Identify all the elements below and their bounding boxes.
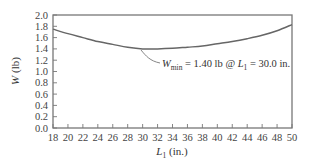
x-tick-label: 18: [48, 132, 59, 143]
y-tick-label: 0.6: [35, 89, 48, 100]
x-tick-label: 50: [287, 132, 298, 143]
weight-curve: [53, 25, 292, 49]
x-axis-label: L1 (in.): [155, 145, 188, 160]
x-tick-label: 32: [152, 132, 163, 143]
y-tick-label: 0.8: [35, 77, 48, 88]
y-tick-label: 0.4: [35, 100, 49, 111]
x-tick-label: 42: [227, 132, 238, 143]
x-tick-label: 20: [63, 132, 74, 143]
x-tick-label: 34: [167, 132, 178, 143]
y-tick-label: 1.2: [35, 55, 48, 66]
y-axis-ticks: 0.00.20.40.60.81.01.21.41.61.82.0: [35, 10, 57, 134]
y-tick-label: 1.0: [35, 66, 48, 77]
y-tick-label: 1.4: [35, 43, 49, 54]
x-tick-label: 36: [182, 132, 193, 143]
y-tick-label: 2.0: [35, 10, 48, 21]
x-tick-label: 38: [197, 132, 208, 143]
x-tick-label: 26: [108, 132, 119, 143]
annotation-leader-line: [141, 50, 160, 63]
y-tick-label: 1.8: [35, 21, 48, 32]
x-tick-label: 30: [137, 132, 148, 143]
chart: 0.00.20.40.60.81.01.21.41.61.82.0 182022…: [0, 0, 309, 165]
x-tick-label: 40: [212, 132, 223, 143]
x-tick-label: 44: [242, 132, 253, 143]
y-tick-label: 0.2: [35, 111, 48, 122]
annotation-text: Wmin = 1.40 lb @ L1 = 30.0 in.: [162, 58, 290, 72]
y-axis-label: W (lb): [9, 57, 22, 85]
x-tick-label: 28: [122, 132, 133, 143]
x-tick-label: 24: [93, 132, 104, 143]
x-tick-label: 22: [78, 132, 89, 143]
y-tick-label: 1.6: [35, 32, 48, 43]
x-tick-label: 46: [257, 132, 268, 143]
x-axis-ticks: 1820222426283032343638404244464850: [48, 124, 298, 143]
x-tick-label: 48: [272, 132, 283, 143]
y-tick-label: 0.0: [35, 123, 48, 134]
